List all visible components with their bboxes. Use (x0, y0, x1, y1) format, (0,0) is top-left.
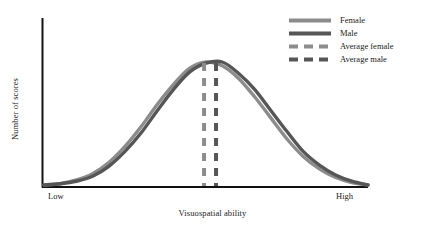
legend-label-female: Female (340, 14, 365, 27)
legend-item-female: Female (288, 14, 393, 27)
x-tick-low: Low (48, 191, 64, 201)
x-tick-high: High (336, 191, 353, 201)
chart-figure: Number of scores Visuospatial ability Lo… (0, 0, 425, 229)
x-axis-title: Visuospatial ability (0, 208, 425, 218)
legend-item-male: Male (288, 27, 393, 40)
chart-legend: Female Male Average female Average male (288, 14, 393, 66)
legend-swatch-average-female (288, 40, 332, 53)
legend-label-average-female: Average female (340, 40, 393, 53)
legend-label-male: Male (340, 27, 357, 40)
legend-swatch-female (288, 14, 332, 27)
legend-item-average-female: Average female (288, 40, 393, 53)
y-axis-title: Number of scores (10, 50, 20, 168)
legend-swatch-average-male (288, 53, 332, 66)
legend-swatch-male (288, 27, 332, 40)
legend-item-average-male: Average male (288, 53, 393, 66)
legend-label-average-male: Average male (340, 53, 387, 66)
